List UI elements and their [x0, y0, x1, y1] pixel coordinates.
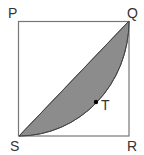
- label-s: S: [10, 139, 19, 153]
- label-r: R: [127, 139, 137, 153]
- label-q: Q: [127, 6, 138, 20]
- diagram: P Q S R T: [0, 0, 144, 155]
- label-t: T: [101, 98, 110, 112]
- square-diagram: [0, 0, 144, 155]
- point-t: [94, 100, 98, 104]
- label-p: P: [8, 6, 17, 20]
